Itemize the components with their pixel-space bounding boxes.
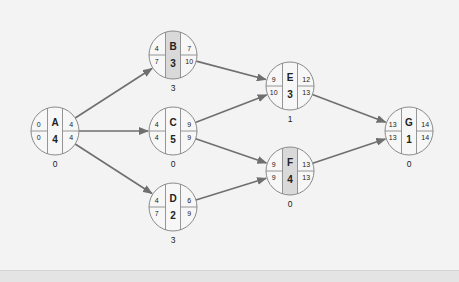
early-finish: 7 [187, 45, 191, 52]
late-finish: 4 [69, 134, 73, 141]
node-d[interactable]: 4769D23 [149, 183, 197, 245]
highlight-strip [283, 147, 298, 195]
edge-d-to-f [196, 178, 266, 200]
slack-label: 0 [407, 159, 412, 169]
early-start: 4 [155, 121, 159, 128]
early-finish: 12 [302, 76, 310, 83]
early-start: 9 [272, 76, 276, 83]
slack-label: 3 [171, 83, 176, 93]
late-finish: 9 [187, 134, 191, 141]
highlight-strip [166, 31, 181, 79]
early-start: 4 [155, 197, 159, 204]
edge-c-to-f [196, 139, 267, 163]
early-finish: 14 [421, 121, 429, 128]
activity-id: G [405, 117, 413, 128]
edge-c-to-e [195, 95, 266, 122]
duration: 4 [52, 134, 58, 145]
late-start: 13 [389, 134, 397, 141]
edges [75, 61, 385, 200]
early-start: 13 [389, 121, 397, 128]
late-finish: 13 [302, 174, 310, 181]
network-diagram-canvas: 0044A4047710B334499C504769D239101213E319… [0, 0, 459, 270]
slack-label: 0 [171, 159, 176, 169]
activity-id: A [51, 117, 58, 128]
duration: 3 [170, 58, 176, 69]
early-start: 0 [37, 121, 41, 128]
edge-a-to-d [75, 144, 152, 193]
edge-b-to-e [196, 61, 266, 79]
slack-label: 3 [171, 235, 176, 245]
late-start: 0 [37, 134, 41, 141]
edge-a-to-b [75, 69, 152, 118]
edge-e-to-g [312, 94, 385, 122]
early-start: 9 [272, 161, 276, 168]
duration: 1 [406, 134, 412, 145]
late-start: 4 [155, 134, 159, 141]
node-e[interactable]: 9101213E31 [266, 62, 314, 124]
late-finish: 9 [187, 210, 191, 217]
late-start: 10 [270, 89, 278, 96]
activity-id: E [287, 72, 294, 83]
activity-id: B [169, 41, 176, 52]
slack-label: 0 [53, 159, 58, 169]
early-finish: 9 [187, 121, 191, 128]
late-start: 7 [155, 58, 159, 65]
late-finish: 10 [185, 58, 193, 65]
network-diagram: 0044A4047710B334499C504769D239101213E319… [0, 0, 459, 270]
slack-label: 0 [288, 199, 293, 209]
early-finish: 4 [69, 121, 73, 128]
nodes: 0044A4047710B334499C504769D239101213E319… [31, 31, 433, 245]
duration: 2 [170, 210, 176, 221]
bottom-bar [0, 270, 459, 282]
node-a[interactable]: 0044A40 [31, 107, 79, 169]
duration: 5 [170, 134, 176, 145]
slack-label: 1 [288, 114, 293, 124]
activity-id: F [287, 157, 293, 168]
early-finish: 6 [187, 197, 191, 204]
late-finish: 13 [302, 89, 310, 96]
late-start: 9 [272, 174, 276, 181]
duration: 4 [287, 174, 293, 185]
late-finish: 14 [421, 134, 429, 141]
node-f[interactable]: 991313F40 [266, 147, 314, 209]
late-start: 7 [155, 210, 159, 217]
duration: 3 [287, 89, 293, 100]
activity-id: C [169, 117, 176, 128]
activity-id: D [169, 193, 176, 204]
edge-f-to-g [313, 139, 386, 163]
early-finish: 13 [302, 161, 310, 168]
node-g[interactable]: 13131414G10 [385, 107, 433, 169]
early-start: 4 [155, 45, 159, 52]
node-c[interactable]: 4499C50 [149, 107, 197, 169]
node-b[interactable]: 47710B33 [149, 31, 197, 93]
